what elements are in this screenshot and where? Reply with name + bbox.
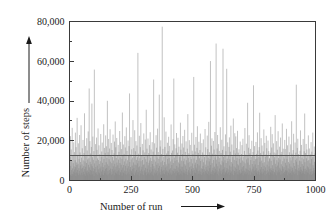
x-tick-label: 750: [247, 184, 262, 195]
y-tick-label: 80,000: [37, 16, 65, 27]
chart-figure: 020,00040,00060,00080,000 02505007501000…: [0, 0, 335, 218]
y-tick-label: 20,000: [37, 135, 65, 146]
x-tick-label: 0: [67, 184, 72, 195]
x-tick-label: 250: [124, 184, 139, 195]
x-axis-title: Number of run: [100, 201, 163, 212]
steps-per-run-chart: 020,00040,00060,00080,000 02505007501000…: [0, 0, 335, 218]
y-axis-title: Number of steps: [20, 108, 31, 177]
x-tick-label: 500: [185, 184, 200, 195]
y-tick-label: 40,000: [37, 95, 65, 106]
y-tick-label: 60,000: [37, 56, 65, 67]
chart-background: [0, 0, 335, 218]
x-tick-label: 1000: [306, 184, 326, 195]
y-tick-label: 0: [60, 175, 65, 186]
